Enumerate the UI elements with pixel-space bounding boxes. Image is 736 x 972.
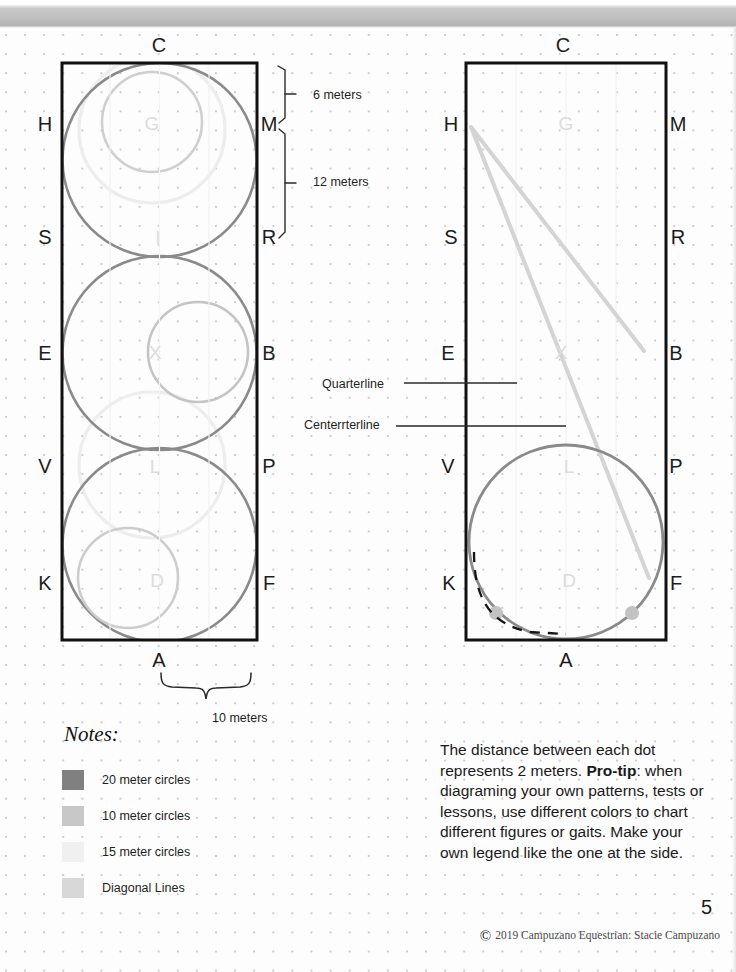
left-arena-label-V: V xyxy=(38,456,51,476)
left-arena-label-B: B xyxy=(262,343,275,363)
legend-swatch-15m xyxy=(62,842,84,862)
right-arena-label-R: R xyxy=(671,227,685,247)
left-arena-label-R: R xyxy=(262,227,276,247)
right-arena-label-K: K xyxy=(442,573,455,593)
copyright-icon: © xyxy=(480,928,491,944)
body-paragraph: The distance between each dot represents… xyxy=(440,740,710,864)
right-arena-center-D: D xyxy=(562,571,576,590)
left-arena-center-I: I xyxy=(155,228,160,247)
diagonal-H-to-B xyxy=(471,127,644,351)
legend-swatch-10m xyxy=(62,806,84,826)
page-canvas: C A H S E V K M R B P F G I X L D 6 mete… xyxy=(0,0,736,972)
dashed-corner-turn xyxy=(474,552,566,634)
legend-swatch-20m xyxy=(62,770,84,790)
annotation-quarterline: Quarterline xyxy=(322,377,384,391)
left-arena-center-D: D xyxy=(150,571,164,590)
right-arena-center-X: X xyxy=(555,343,568,362)
left-arena-label-C: C xyxy=(152,35,166,55)
left-arena-label-M: M xyxy=(261,114,278,134)
notes-title: Notes: xyxy=(64,722,119,747)
legend-label-diagonal: Diagonal Lines xyxy=(102,881,185,895)
body-text-bold: Pro-tip xyxy=(586,762,636,779)
marker-dot-east xyxy=(625,606,639,620)
measurement-12-meters: 12 meters xyxy=(313,175,369,189)
measurement-brackets xyxy=(278,66,296,238)
page-number: 5 xyxy=(701,896,712,919)
left-arena-label-F: F xyxy=(263,573,275,593)
left-arena-label-P: P xyxy=(262,456,275,476)
legend-item: 20 meter circles xyxy=(62,762,190,798)
measurement-6-meters: 6 meters xyxy=(313,88,362,102)
copyright-notice: ©2019 Campuzano Equestrian: Stacie Campu… xyxy=(480,928,720,945)
marker-dot-west xyxy=(489,606,503,620)
right-arena-label-P: P xyxy=(669,456,682,476)
legend-item: 10 meter circles xyxy=(62,798,190,834)
legend-label-15m: 15 meter circles xyxy=(102,845,190,859)
legend-swatch-diagonal xyxy=(62,878,84,898)
left-arena-label-E: E xyxy=(38,343,51,363)
left-arena-label-K: K xyxy=(38,573,51,593)
legend-label-20m: 20 meter circles xyxy=(102,773,190,787)
bracket-12m xyxy=(279,129,285,238)
right-arena-center-G: G xyxy=(559,114,574,133)
right-arena-label-M: M xyxy=(670,114,687,134)
right-arena-label-V: V xyxy=(441,456,454,476)
left-arena-center-X: X xyxy=(149,343,162,362)
right-arena-label-S: S xyxy=(444,227,457,247)
left-arena-center-G: G xyxy=(145,114,160,133)
right-arena-label-E: E xyxy=(441,343,454,363)
left-arena-label-A: A xyxy=(152,650,165,670)
annotation-centerline: Centerrterline xyxy=(304,418,380,432)
brace-10m xyxy=(161,673,251,699)
left-arena-label-H: H xyxy=(38,114,52,134)
left-arena-label-S: S xyxy=(38,227,51,247)
right-arena-label-F: F xyxy=(670,573,682,593)
right-arena-label-B: B xyxy=(669,343,682,363)
left-arena-center-L: L xyxy=(150,457,161,476)
legend-item: Diagonal Lines xyxy=(62,870,190,906)
circle-10m-at-B xyxy=(148,302,248,402)
right-arena-label-H: H xyxy=(444,114,458,134)
legend-label-10m: 10 meter circles xyxy=(102,809,190,823)
right-arena-label-C: C xyxy=(556,35,570,55)
legend-item: 15 meter circles xyxy=(62,834,190,870)
copyright-text: 2019 Campuzano Equestrian: Stacie Campuz… xyxy=(495,929,720,941)
right-arena-label-A: A xyxy=(559,650,572,670)
legend: 20 meter circles 10 meter circles 15 met… xyxy=(62,762,190,906)
bracket-6m xyxy=(278,66,285,123)
measurement-10-meters: 10 meters xyxy=(212,711,268,725)
right-arena-center-L: L xyxy=(564,457,575,476)
